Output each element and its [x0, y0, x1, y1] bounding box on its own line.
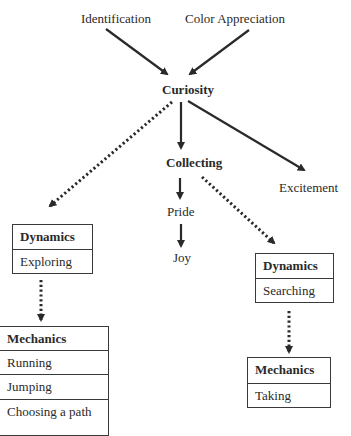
node-pride: Pride — [167, 204, 194, 220]
box-item: Exploring — [13, 250, 92, 274]
box-header: Mechanics — [248, 358, 330, 384]
node-joy: Joy — [173, 250, 191, 266]
edge-curiosity-dynamics-left — [50, 102, 172, 206]
node-identification: Identification — [81, 11, 151, 27]
node-excitement: Excitement — [279, 180, 338, 196]
mechanics-box-left: Mechanics Running Jumping Choosing a pat… — [0, 326, 109, 436]
box-header: Mechanics — [0, 327, 108, 351]
mechanics-box-right: Mechanics Taking — [247, 357, 331, 408]
dynamics-box-exploring: Dynamics Exploring — [12, 224, 93, 274]
edge-color-curiosity — [190, 30, 249, 74]
box-item: Jumping — [0, 375, 108, 400]
edge-collecting-dynamics-right — [202, 177, 274, 243]
dynamics-box-searching: Dynamics Searching — [255, 253, 334, 303]
box-item: Choosing a path — [0, 400, 108, 425]
node-color-appreciation: Color Appreciation — [185, 11, 285, 27]
box-header: Dynamics — [256, 254, 333, 279]
box-header: Dynamics — [13, 225, 92, 250]
edge-identification-curiosity — [106, 29, 167, 74]
box-item: Taking — [248, 384, 330, 408]
box-item: Running — [0, 351, 108, 375]
node-collecting: Collecting — [166, 155, 222, 171]
node-curiosity: Curiosity — [162, 82, 214, 98]
box-item: Searching — [256, 279, 333, 303]
